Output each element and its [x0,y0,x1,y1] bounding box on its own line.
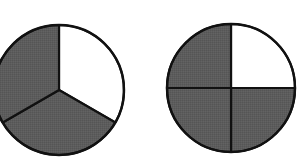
fraction-circles-diagram [0,0,303,161]
circle-thirds-figure [0,25,124,155]
circle-quarters-figure [167,24,295,152]
